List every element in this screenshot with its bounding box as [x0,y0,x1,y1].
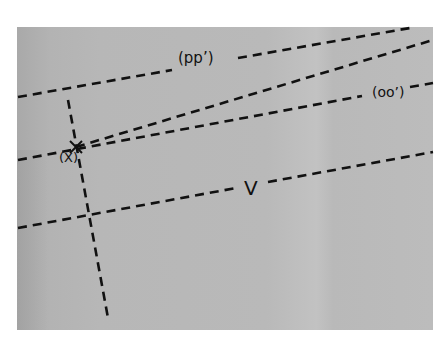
diagram-canvas [0,0,440,341]
v-label: V [244,176,258,200]
v-line-right [268,152,433,182]
oo-line-right [410,83,433,87]
oo-label: (oo’) [372,84,405,100]
pp-label: (pp’) [178,49,214,67]
pp-line-left [18,70,172,97]
x-label: (X) [59,150,78,165]
v-line-left [18,188,236,228]
vertical-line [68,100,108,318]
